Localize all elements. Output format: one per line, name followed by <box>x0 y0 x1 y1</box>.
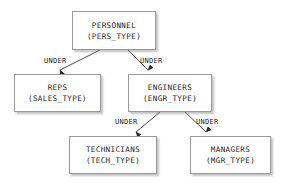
node-managers[interactable]: MANAGERS(MGR_TYPE) <box>190 136 271 174</box>
node-type: (SALES_TYPE) <box>28 93 87 104</box>
node-name: TECHNICIANS <box>86 144 140 155</box>
edge-label-personnel-reps: UNDER <box>44 57 67 65</box>
node-name: MANAGERS <box>211 144 250 155</box>
edge-label-engineers-technicians: UNDER <box>115 118 138 126</box>
edge-label-personnel-engineers: UNDER <box>140 57 163 65</box>
node-type: (ENGR_TYPE) <box>143 93 197 104</box>
node-engineers[interactable]: ENGINEERS(ENGR_TYPE) <box>128 74 212 112</box>
node-name: ENGINEERS <box>148 82 192 93</box>
edge-engineers-technicians <box>136 112 160 132</box>
node-technicians[interactable]: TECHNICIANS(TECH_TYPE) <box>69 136 157 174</box>
node-type: (MGR_TYPE) <box>206 155 255 166</box>
diagram-canvas: PERSONNEL(PERS_TYPE)REPS(SALES_TYPE)ENGI… <box>0 0 287 187</box>
edge-label-engineers-managers: UNDER <box>196 118 219 126</box>
node-type: (TECH_TYPE) <box>86 155 140 166</box>
node-type: (PERS_TYPE) <box>87 31 141 42</box>
node-reps[interactable]: REPS(SALES_TYPE) <box>14 74 101 112</box>
node-name: REPS <box>48 82 68 93</box>
node-personnel[interactable]: PERSONNEL(PERS_TYPE) <box>72 11 156 50</box>
node-name: PERSONNEL <box>92 20 136 31</box>
